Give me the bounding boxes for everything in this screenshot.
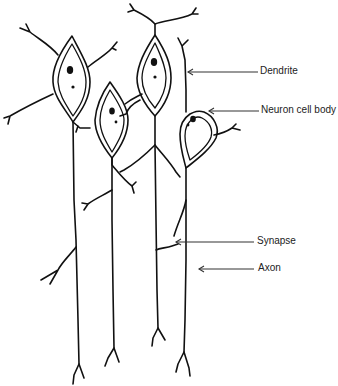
neuron-1 <box>4 24 117 384</box>
neuron-diagram <box>0 0 338 386</box>
neuron-2 <box>82 82 142 366</box>
label-arrows <box>176 69 259 272</box>
axon-label: Axon <box>258 262 281 273</box>
dendrite-label: Dendrite <box>260 65 298 76</box>
synapse-label: Synapse <box>257 235 296 246</box>
cell-body-label: Neuron cell body <box>261 104 336 115</box>
neuron-4 <box>174 38 240 376</box>
